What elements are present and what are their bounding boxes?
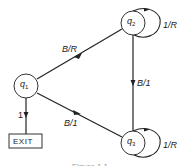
- edge-q1-exit: 1: [18, 98, 29, 134]
- node-q3: q3: [121, 131, 145, 155]
- node-exit: EXIT: [9, 134, 42, 148]
- edge-label-q1-q3: B/1: [64, 118, 78, 128]
- edge-q1-q3: B/1: [37, 93, 122, 137]
- arrow-icon: [24, 112, 29, 118]
- edge-label-q3-loop: 1/R: [163, 140, 178, 150]
- edge-q2-q3: B/1: [131, 35, 151, 131]
- edge-label-q2-loop: 1/R: [163, 20, 178, 30]
- node-q2: q2: [121, 11, 145, 35]
- edge-q1-q2: B/R: [37, 29, 122, 79]
- edge-label-q2-q3: B/1: [137, 78, 151, 88]
- state-diagram: B/R B/1 B/1 1 1/R 1/R q1 q2: [0, 0, 184, 166]
- arrow-icon: [73, 110, 81, 115]
- svg-text:EXIT: EXIT: [13, 137, 33, 146]
- arrow-icon: [131, 80, 136, 86]
- edge-label-q1-q2: B/R: [62, 44, 78, 54]
- node-q1: q1: [14, 74, 38, 98]
- edge-label-q1-exit: 1: [18, 110, 23, 120]
- figure-caption: Figure 1.1: [72, 162, 109, 166]
